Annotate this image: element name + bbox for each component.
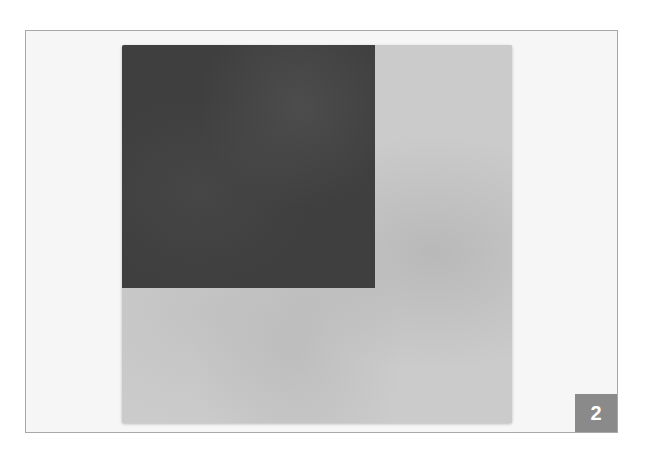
figure-frame: 2 xyxy=(25,30,618,433)
artwork-photo xyxy=(122,45,512,423)
figure-number-badge: 2 xyxy=(575,394,617,432)
dark-grey-panel xyxy=(122,45,375,288)
